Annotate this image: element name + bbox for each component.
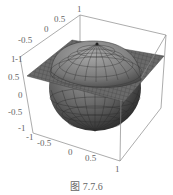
tick-label: 0.5 (8, 72, 20, 82)
dome-pole (96, 43, 99, 46)
tick-label: 0 (44, 24, 49, 34)
tick-label: 0.5 (54, 14, 66, 24)
tick-label: -1 (18, 123, 26, 133)
tick-label: -1 (26, 132, 34, 142)
tick-label: -0.5 (18, 35, 33, 45)
figure-caption: 图 7.7.6 (0, 178, 173, 193)
tick-label: -0.5 (8, 107, 23, 117)
tick-label: -1 (15, 54, 23, 64)
front-axis-ticks: -1 -0.5 0 0.5 1 (26, 132, 120, 174)
tick-label: 0 (18, 90, 23, 100)
tick-label: 0 (68, 147, 73, 157)
vertical-axis-ticks: 1 0.5 0 -0.5 -1 (8, 54, 26, 133)
tick-label: 1 (115, 164, 120, 174)
3d-plot: -1 -0.5 0 0.5 1 1 0.5 0 -0.5 -1 -1 -0.5 … (0, 0, 173, 195)
tick-label: 0.5 (85, 153, 97, 163)
tick-label: -0.5 (37, 138, 52, 148)
tick-label: 1 (77, 4, 82, 14)
tick-label: 1 (11, 54, 16, 64)
